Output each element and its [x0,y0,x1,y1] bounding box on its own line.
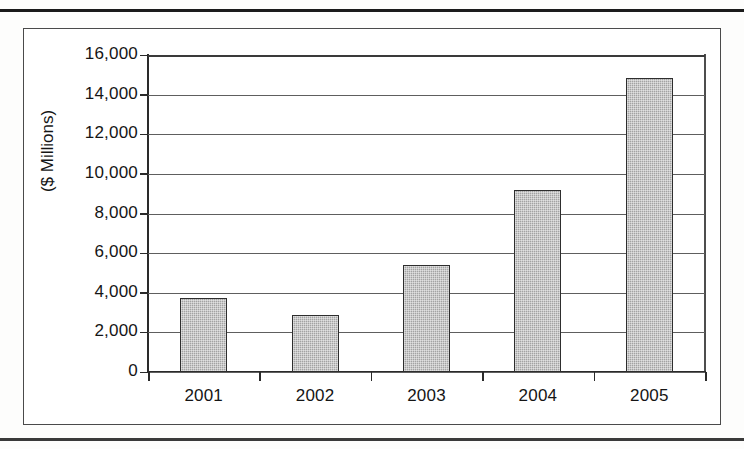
x-axis-tick-label: 2002 [259,386,371,406]
bar [180,298,227,372]
y-axis-tick-label: 4,000 [94,282,138,302]
y-axis-tick-mark [140,292,148,294]
x-axis-tick-mark [371,372,373,381]
bar [292,315,339,372]
bar [403,265,450,372]
y-axis-tick-label: 16,000 [85,44,138,64]
x-axis-tick-mark [259,372,261,381]
y-axis-tick-label: 14,000 [85,84,138,104]
x-axis-tick-mark [482,372,484,381]
y-axis-tick-label: 10,000 [85,163,138,183]
gridline [148,134,705,135]
gridline [148,95,705,96]
x-axis-tick-label: 2003 [371,386,483,406]
y-axis-tick-label: 2,000 [94,321,138,341]
bar [626,78,673,372]
y-axis-tick-mark [140,372,148,374]
y-axis-tick-mark [140,94,148,96]
gridline [148,174,705,175]
x-axis-tick-mark [148,372,150,381]
gridline [148,372,705,373]
y-axis-tick-mark [140,173,148,175]
y-axis-tick-mark [140,253,148,255]
figure-page: ($ Millions) 02,0004,0006,0008,00010,000… [0,0,744,449]
bar [514,190,561,372]
gridline [148,55,705,57]
y-axis-tick-label: 6,000 [94,242,138,262]
x-axis-tick-label: 2004 [482,386,594,406]
gridline [148,253,705,254]
x-axis-tick-label: 2001 [148,386,260,406]
y-axis-tick-label: 12,000 [85,123,138,143]
y-axis-tick-mark [140,55,148,57]
y-axis-tick-label: 8,000 [94,203,138,223]
y-axis-tick-mark [140,332,148,334]
gridline [148,214,705,215]
x-axis-tick-mark [705,372,707,381]
y-axis-tick-mark [140,213,148,215]
x-axis-tick-label: 2005 [593,386,705,406]
x-axis-tick-mark [594,372,596,381]
y-axis-tick-mark [140,134,148,136]
y-axis-tick-label: 0 [128,361,138,381]
plot-area [148,55,705,372]
y-axis-tick-labels: 02,0004,0006,0008,00010,00012,00014,0001… [38,0,138,449]
